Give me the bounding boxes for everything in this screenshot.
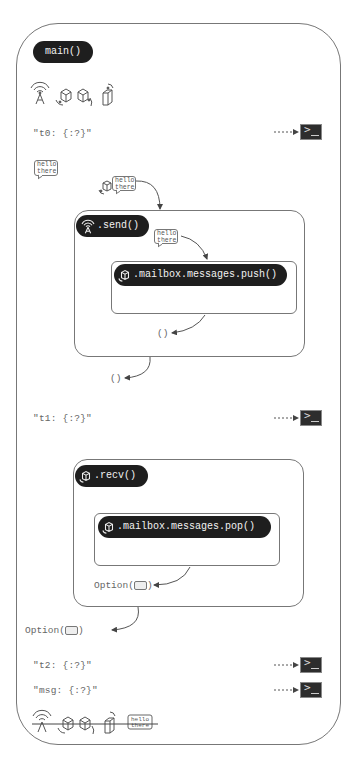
flow-arrows xyxy=(0,0,359,765)
